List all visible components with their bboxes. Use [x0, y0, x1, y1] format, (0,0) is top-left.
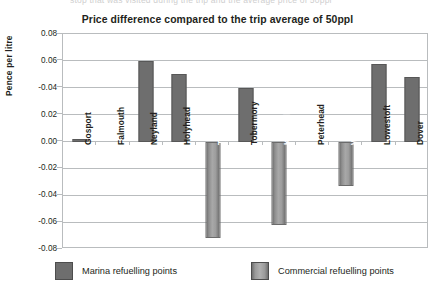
- legend-label: Marina refuelling points: [82, 266, 177, 276]
- y-tick-mark: [57, 113, 62, 114]
- x-category-label-whitby: Whitby: [349, 116, 359, 144]
- x-tick-mark: [328, 141, 329, 145]
- legend-swatch-commercial: [251, 262, 269, 280]
- x-category-label-tarbert: Tarbert: [216, 116, 226, 145]
- y-tick-label: -0.08: [0, 244, 57, 253]
- x-tick-mark: [361, 141, 362, 145]
- y-tick-label: 0.08: [0, 29, 57, 38]
- y-tick-label: -0.06: [0, 217, 57, 226]
- x-category-label-neyland: Neyland: [149, 112, 159, 145]
- x-category-label-holyhead: Holyhead: [182, 106, 192, 144]
- chart-figure: stop that was visited during the trip an…: [0, 0, 435, 295]
- x-category-label-tobermory: Tobermory: [249, 101, 259, 145]
- y-tick-mark: [57, 248, 62, 249]
- x-category-label-lowestoft: Lowestoft: [382, 104, 392, 144]
- x-tick-mark: [129, 141, 130, 145]
- y-tick-label: -0.02: [0, 163, 57, 172]
- x-category-label-peterhead: Peterhead: [316, 103, 326, 144]
- x-tick-mark: [95, 141, 96, 145]
- chart-legend: Marina refuelling pointsCommercial refue…: [55, 259, 415, 283]
- x-category-label-falmouth: Falmouth: [116, 106, 126, 144]
- x-tick-mark: [295, 141, 296, 145]
- bar-tarbert[interactable]: [205, 142, 220, 239]
- x-category-label-dover: Dover: [415, 120, 425, 144]
- x-category-label-kirkwall: Kirkwall: [282, 112, 292, 145]
- x-tick-mark: [195, 141, 196, 145]
- x-tick-mark: [395, 141, 396, 145]
- x-tick-mark: [262, 141, 263, 145]
- y-tick-mark: [57, 167, 62, 168]
- legend-swatch-marina: [55, 262, 73, 280]
- y-tick-label: -0.04: [0, 190, 57, 199]
- y-tick-mark: [57, 33, 62, 34]
- bar-kirkwall[interactable]: [272, 142, 287, 225]
- y-tick-mark: [57, 59, 62, 60]
- y-tick-label: 0.02: [0, 109, 57, 118]
- y-tick-label: -0.04: [0, 82, 57, 91]
- x-tick-mark: [228, 141, 229, 145]
- x-tick-mark: [162, 141, 163, 145]
- y-tick-mark: [57, 221, 62, 222]
- y-tick-mark: [57, 86, 62, 87]
- y-tick-label: 0.00: [0, 136, 57, 145]
- x-category-label-gosport: Gosport: [83, 112, 93, 145]
- x-tick-mark: [62, 141, 63, 145]
- legend-entry[interactable]: Marina refuelling points: [55, 259, 177, 283]
- y-tick-label: 0.06: [0, 55, 57, 64]
- bleed-through-text: stop that was visited during the trip an…: [70, 0, 370, 5]
- chart-title: Price difference compared to the trip av…: [0, 14, 435, 25]
- legend-label: Commercial refuelling points: [278, 266, 394, 276]
- legend-entry[interactable]: Commercial refuelling points: [251, 259, 394, 283]
- bar-whitby[interactable]: [338, 142, 353, 186]
- y-tick-mark: [57, 194, 62, 195]
